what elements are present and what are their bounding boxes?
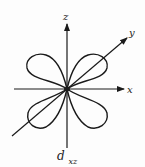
orbital-label: d xz — [57, 149, 78, 166]
orbital-label-subscript: xz — [69, 157, 79, 166]
y-axis — [12, 38, 127, 136]
orbital-label-main: d — [57, 149, 65, 163]
z-axis-label: z — [62, 11, 69, 22]
lobe-lower-right — [67, 89, 107, 128]
lobe-upper-left — [27, 54, 67, 89]
axes — [12, 24, 127, 148]
y-axis-label: y — [128, 27, 135, 38]
origin-node — [64, 87, 70, 91]
orbital-diagram: z x y d xz — [0, 0, 145, 167]
x-axis-label: x — [127, 84, 133, 95]
